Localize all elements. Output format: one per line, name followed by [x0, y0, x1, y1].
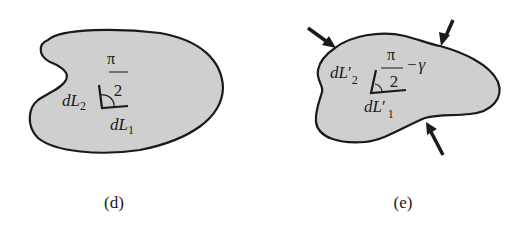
angle-2-label: 2: [390, 72, 399, 91]
load-arrow-bottom: [426, 122, 443, 155]
angle-pi-label: π: [387, 46, 395, 63]
figure-canvas: π 2 dL2 dL1 (d) π 2 −γ dL′2 dL′1 (: [0, 0, 527, 226]
load-arrow-top-right: [439, 20, 453, 46]
body-shape-deformed: [316, 34, 500, 143]
panel-d: π 2 dL2 dL1 (d): [30, 30, 223, 212]
angle-pi-label: π: [107, 50, 115, 67]
load-arrow-top-left: [308, 28, 336, 48]
body-shape-undeformed: [30, 30, 223, 153]
angle-2-label: 2: [114, 81, 123, 100]
caption-e: (e): [394, 193, 413, 212]
caption-d: (d): [104, 193, 124, 212]
panel-e: π 2 −γ dL′2 dL′1 (e): [308, 20, 500, 212]
